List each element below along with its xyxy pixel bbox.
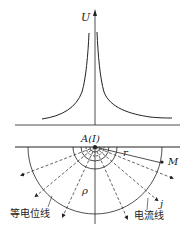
u-axis	[93, 9, 97, 125]
source-a	[93, 145, 97, 149]
source-label: A(I)	[81, 134, 100, 144]
equipotential-label: 等电位线	[10, 209, 50, 219]
current-density-label: j	[160, 199, 163, 209]
current-leader	[147, 198, 148, 210]
u-axis-label: U	[81, 12, 90, 23]
point-m	[160, 160, 163, 163]
resistivity-label: ρ	[82, 186, 88, 196]
current-line-label: 电流线	[134, 211, 164, 221]
diagram-canvas	[0, 0, 193, 236]
point-m-label: M	[168, 157, 178, 167]
radius-label: r	[123, 148, 128, 158]
equipotential-leader	[48, 196, 52, 207]
potential-curve	[42, 32, 172, 119]
